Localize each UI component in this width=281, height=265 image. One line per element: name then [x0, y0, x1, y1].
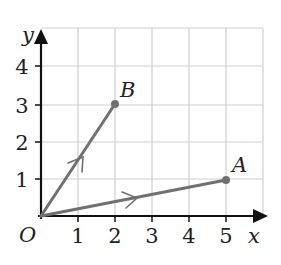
point-b-label: B: [119, 78, 135, 102]
svg-text:3: 3: [15, 94, 28, 118]
vector-oa: [41, 180, 226, 216]
svg-text:1: 1: [71, 224, 84, 248]
y-axis-label: y: [21, 23, 35, 47]
x-tick-labels: 1 2 3 4 5: [71, 224, 232, 248]
origin-label: O: [19, 223, 36, 247]
svg-text:3: 3: [145, 224, 158, 248]
svg-text:4: 4: [15, 55, 28, 79]
x-axis-label: x: [248, 224, 260, 248]
svg-text:2: 2: [108, 224, 121, 248]
point-b: [111, 100, 119, 108]
svg-text:4: 4: [182, 224, 195, 248]
x-axis-arrow-icon: [253, 209, 268, 223]
vector-diagram: B A y x O 1 2 3 4 5 1 2 3 4: [0, 0, 281, 265]
diagram-canvas: B A y x O 1 2 3 4 5 1 2 3 4: [0, 0, 281, 265]
svg-text:5: 5: [219, 224, 232, 248]
point-a-label: A: [230, 153, 247, 177]
grid: [41, 28, 263, 216]
svg-text:2: 2: [15, 131, 28, 155]
y-axis-arrow-icon: [34, 29, 48, 44]
svg-text:1: 1: [15, 168, 28, 192]
point-a: [222, 176, 230, 184]
y-tick-labels: 1 2 3 4: [15, 55, 28, 192]
vectors: [41, 104, 226, 216]
